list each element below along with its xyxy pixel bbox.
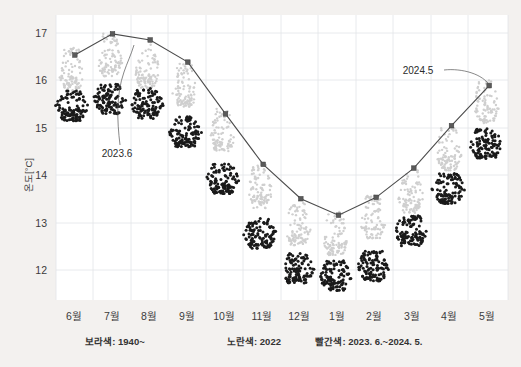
data-point <box>160 97 163 100</box>
data-point <box>339 233 341 235</box>
data-point <box>58 106 61 109</box>
data-point <box>186 143 189 146</box>
data-point <box>66 89 69 92</box>
data-point <box>267 175 269 177</box>
data-point <box>141 52 143 54</box>
data-point <box>294 263 297 266</box>
data-point <box>361 275 364 278</box>
data-point <box>332 219 334 221</box>
data-point <box>177 87 179 89</box>
data-point <box>180 140 183 143</box>
data-point <box>287 281 290 284</box>
data-point <box>291 213 293 215</box>
data-point <box>299 224 301 226</box>
data-point <box>408 211 410 213</box>
xtick-jul: 7월 <box>104 310 120 322</box>
data-point <box>109 41 111 43</box>
data-point <box>300 240 302 242</box>
data-point <box>150 49 152 51</box>
data-point <box>149 83 151 85</box>
data-point <box>137 80 139 82</box>
data-point <box>59 76 61 78</box>
data-point <box>232 142 234 144</box>
data-point <box>382 275 385 278</box>
data-point <box>112 38 114 40</box>
data-point <box>103 96 106 99</box>
xtick-nov: 11월 <box>252 310 273 322</box>
data-point <box>138 74 140 76</box>
data-point <box>379 220 381 222</box>
data-point <box>492 117 494 119</box>
data-point <box>456 149 458 151</box>
data-point <box>184 127 187 130</box>
data-point <box>250 198 252 200</box>
data-point <box>287 254 290 257</box>
data-point <box>475 95 477 97</box>
data-point <box>105 57 107 59</box>
data-point <box>131 103 134 106</box>
data-point <box>451 160 453 162</box>
data-point <box>380 273 383 276</box>
data-point <box>328 251 330 253</box>
data-point <box>228 190 231 193</box>
data-point <box>72 110 75 113</box>
data-point <box>138 114 141 117</box>
data-point <box>242 233 245 236</box>
data-point <box>137 71 139 73</box>
data-point <box>254 182 256 184</box>
data-point <box>155 80 157 82</box>
data-point <box>446 150 448 152</box>
data-point <box>141 117 144 120</box>
data-point <box>138 82 140 84</box>
data-point <box>259 173 261 175</box>
data-point <box>252 196 254 198</box>
data-point <box>449 163 451 165</box>
data-point <box>375 251 378 254</box>
data-point <box>174 118 177 121</box>
data-point <box>259 194 261 196</box>
data-point <box>385 264 388 267</box>
data-point <box>138 98 141 101</box>
data-point <box>189 122 192 125</box>
data-point <box>210 134 212 136</box>
data-point <box>349 277 352 280</box>
data-point <box>71 66 73 68</box>
data-point <box>148 63 150 65</box>
data-point <box>495 110 497 112</box>
data-point <box>117 71 119 73</box>
data-point <box>223 192 226 195</box>
data-point <box>182 88 184 90</box>
data-point <box>260 204 262 206</box>
data-point <box>64 79 66 81</box>
data-point <box>76 58 78 60</box>
data-point <box>368 276 371 279</box>
data-point <box>78 61 80 63</box>
data-point <box>414 204 416 206</box>
data-point <box>407 241 410 244</box>
data-point <box>98 91 101 94</box>
data-point <box>248 221 251 224</box>
data-point <box>489 131 492 134</box>
data-point <box>70 118 73 121</box>
data-point <box>417 198 419 200</box>
data-point <box>111 75 113 77</box>
data-point <box>333 232 335 234</box>
data-point <box>435 195 438 198</box>
data-point <box>93 95 96 98</box>
data-point <box>489 119 491 121</box>
data-point <box>342 252 344 254</box>
data-point <box>361 217 363 219</box>
data-point <box>250 181 252 183</box>
ytick-13: 13 <box>35 217 47 229</box>
data-point <box>301 262 304 265</box>
xtick-dec: 12월 <box>288 310 310 322</box>
series-marker-6월 <box>73 53 78 58</box>
data-point <box>405 223 408 226</box>
data-point <box>340 283 343 286</box>
data-point <box>66 111 69 114</box>
data-point <box>311 267 314 270</box>
data-point <box>482 120 484 122</box>
data-point <box>379 203 381 205</box>
data-point <box>363 258 366 261</box>
data-point <box>298 227 300 229</box>
